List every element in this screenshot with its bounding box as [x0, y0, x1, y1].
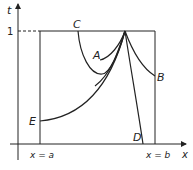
- t-axis-label: t: [7, 4, 12, 17]
- label-e: E: [29, 115, 36, 128]
- curve-e: [40, 31, 125, 121]
- curve-d: [125, 31, 143, 144]
- characteristics-diagram: t 1 x C A B E D x = a x = b: [0, 0, 193, 170]
- x-axis-label: x: [181, 149, 188, 160]
- curve-b: [125, 31, 155, 76]
- right-boundary-label: x = b: [145, 150, 171, 160]
- label-a: A: [92, 49, 101, 62]
- label-c: C: [73, 18, 81, 31]
- label-b: B: [157, 71, 165, 84]
- label-d: D: [133, 131, 141, 144]
- tick-label-1: 1: [7, 26, 13, 37]
- left-boundary-label: x = a: [29, 150, 54, 160]
